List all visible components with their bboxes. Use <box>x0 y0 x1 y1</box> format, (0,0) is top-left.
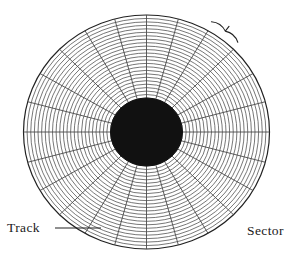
sector-line <box>60 49 122 108</box>
spindle-hub <box>111 98 183 166</box>
platter-illustration <box>0 0 288 260</box>
disk-platter-figure: Track Sector <box>0 0 288 260</box>
sector-line <box>172 49 234 108</box>
sector-line <box>40 149 115 191</box>
track-label: Track <box>7 221 40 235</box>
sector-line <box>60 156 122 215</box>
hub-disc <box>111 98 183 166</box>
sector-line <box>40 74 115 116</box>
sector-label: Sector <box>247 224 284 238</box>
sector-line <box>178 149 253 191</box>
sector-line <box>172 156 234 215</box>
sector-line <box>178 74 253 116</box>
